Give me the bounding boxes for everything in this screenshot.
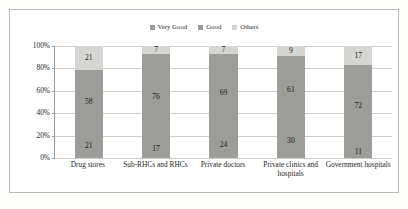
- y-tick-label: 60%: [36, 87, 50, 94]
- bar-slot: 76924: [190, 46, 257, 158]
- bar-slot: 77617: [122, 46, 189, 158]
- bar-segment-others[interactable]: 7: [209, 46, 237, 54]
- plot-wrapper: 100%80%60%40%20%0% 215821776177692496130…: [22, 46, 392, 158]
- y-axis-tick: [52, 158, 55, 159]
- bar-segment-value: 7: [154, 46, 158, 54]
- x-axis-categories: Drug storesSub-RHCs and RHCsPrivate doct…: [54, 160, 392, 179]
- bar-segment-value: 72: [355, 102, 363, 110]
- gridline: [55, 158, 392, 159]
- y-tick-label: 80%: [36, 65, 50, 72]
- bar-segment-value: 17: [152, 145, 160, 153]
- bar-segment-others[interactable]: 21: [75, 46, 103, 70]
- bar-segment-good[interactable]: 69: [209, 54, 237, 131]
- bar-segment-very-good[interactable]: 17: [142, 139, 170, 158]
- bar-segment-value: 69: [220, 89, 228, 97]
- y-tick-label: 20%: [36, 132, 50, 139]
- x-axis-category-label: Government hospitals: [324, 160, 392, 179]
- bar-segment-good[interactable]: 72: [344, 65, 372, 146]
- bar-stack[interactable]: 77617: [142, 46, 170, 158]
- bar-stack[interactable]: 215821: [75, 46, 103, 158]
- bar-segment-value: 21: [85, 142, 93, 150]
- y-tick-label: 0%: [40, 154, 50, 161]
- bar-slot: 96130: [257, 46, 324, 158]
- bar-segment-value: 17: [355, 52, 363, 60]
- y-tick-label: 100%: [33, 42, 50, 49]
- bar-segment-very-good[interactable]: 30: [277, 124, 305, 158]
- chart-screenshot: Very Good Good Others 100%80%60%40%20%0%…: [0, 0, 408, 209]
- bar-segment-value: 76: [152, 93, 160, 101]
- bar-segment-others[interactable]: 17: [344, 46, 372, 65]
- bar-segment-value: 24: [220, 141, 228, 149]
- bar-segment-value: 61: [287, 86, 295, 94]
- plot-area: 215821776177692496130177211: [54, 46, 392, 159]
- bar-segment-very-good[interactable]: 21: [75, 134, 103, 158]
- bar-segment-good[interactable]: 61: [277, 56, 305, 124]
- bar-segment-others[interactable]: 9: [277, 46, 305, 56]
- y-axis: 100%80%60%40%20%0%: [22, 46, 52, 158]
- bar-stack[interactable]: 96130: [277, 46, 305, 158]
- bar-segment-value: 30: [287, 137, 295, 145]
- y-tick-label: 40%: [36, 109, 50, 116]
- bar-stack[interactable]: 76924: [209, 46, 237, 158]
- bar-segment-good[interactable]: 58: [75, 70, 103, 135]
- bar-segment-very-good[interactable]: 11: [344, 146, 372, 158]
- bar-slot: 215821: [55, 46, 122, 158]
- bar-segment-value: 21: [85, 54, 93, 62]
- bar-segment-value: 11: [355, 148, 362, 156]
- bar-series-group: 215821776177692496130177211: [55, 46, 392, 158]
- bar-stack[interactable]: 177211: [344, 46, 372, 158]
- bar-segment-value: 7: [222, 46, 226, 54]
- bar-segment-value: 9: [289, 47, 293, 55]
- x-axis-category-label: Private doctors: [189, 160, 257, 179]
- bar-segment-very-good[interactable]: 24: [209, 131, 237, 158]
- bar-slot: 177211: [325, 46, 392, 158]
- x-axis-category-label: Drug stores: [54, 160, 122, 179]
- x-axis-category-label: Private clinics and hospitals: [257, 160, 325, 179]
- bar-segment-value: 58: [85, 98, 93, 106]
- bar-segment-others[interactable]: 7: [142, 46, 170, 54]
- x-axis-category-label: Sub-RHCs and RHCs: [122, 160, 190, 179]
- bar-segment-good[interactable]: 76: [142, 54, 170, 139]
